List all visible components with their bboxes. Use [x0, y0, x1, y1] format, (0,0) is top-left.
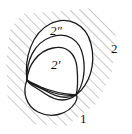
label-1: 1 — [80, 112, 87, 125]
figure-svg — [0, 0, 132, 134]
label-2-prime: 2′ — [51, 58, 60, 71]
label-2: 2 — [111, 42, 118, 55]
figure-container: 2″ 2′ 2 1 — [0, 0, 132, 134]
label-2-double-prime: 2″ — [50, 24, 62, 37]
